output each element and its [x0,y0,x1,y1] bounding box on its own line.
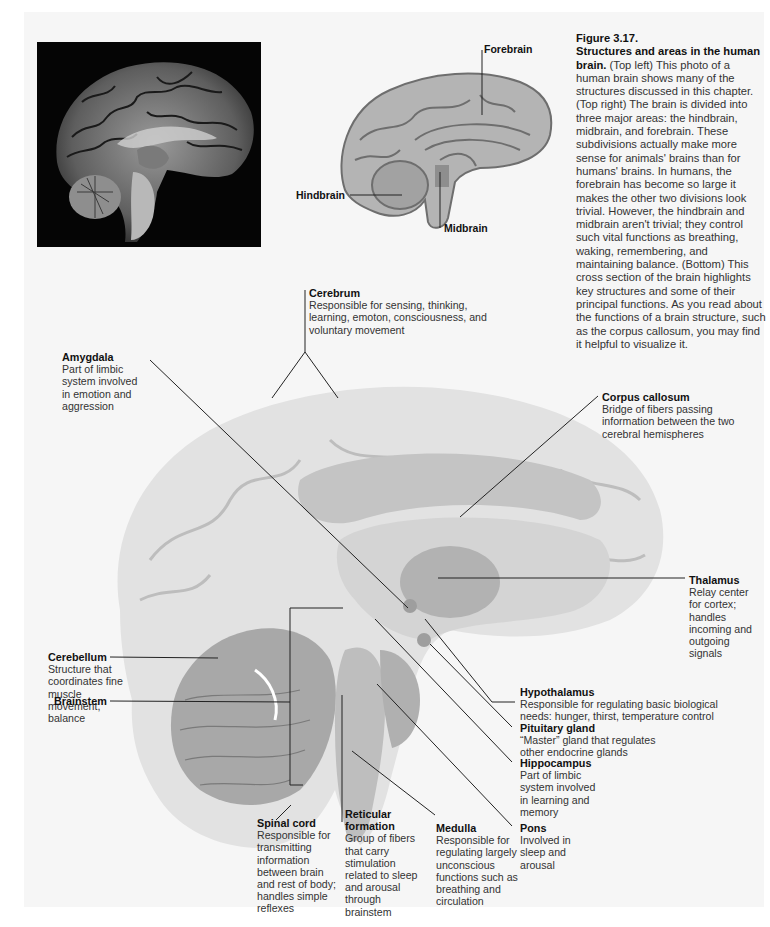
figure-caption: Figure 3.17. Structures and areas in the… [576,32,766,351]
label-hippocampus: Hippocampus Part of limbic system involv… [520,757,602,818]
label-medulla: Medulla Responsible for regulating large… [436,822,518,907]
medulla-name: Medulla [436,822,518,834]
label-pons: Pons Involved in sleep and arousal [520,822,582,871]
label-reticular-formation: Reticular formation Group of fibers that… [345,808,423,918]
thalamus-name: Thalamus [689,574,759,586]
cerebellum-name: Cerebellum [48,651,128,663]
corpus-callosum-desc: Bridge of fibers passing information bet… [602,403,767,440]
amygdala-desc: Part of limbic system involved in emotio… [62,363,140,412]
label-brainstem: Brainstem [54,695,107,707]
spinal-cord-name: Spinal cord [257,817,337,829]
label-thalamus: Thalamus Relay center for cortex; handle… [689,574,759,659]
medulla-desc: Responsible for regulating largely uncon… [436,834,518,907]
reticular-name: Reticular formation [345,808,423,832]
pons-desc: Involved in sleep and arousal [520,834,582,871]
hypothalamus-desc: Responsible for regulating basic biologi… [520,698,730,722]
cerebrum-desc: Responsible for sensing, thinking, learn… [309,299,499,336]
figure-number: Figure 3.17. [576,32,766,45]
label-forebrain: Forebrain [484,43,532,55]
brainstem-name: Brainstem [54,695,107,707]
label-spinal-cord: Spinal cord Responsible for transmitting… [257,817,337,915]
label-midbrain: Midbrain [444,222,488,234]
division-diagram [341,50,551,228]
label-amygdala: Amygdala Part of limbic system involved … [62,351,140,412]
hippocampus-name: Hippocampus [520,757,602,769]
cerebrum-name: Cerebrum [309,287,499,299]
hypothalamus-name: Hypothalamus [520,686,730,698]
label-corpus-callosum: Corpus callosum Bridge of fibers passing… [602,391,767,440]
label-hypothalamus: Hypothalamus Responsible for regulating … [520,686,730,723]
label-pituitary-gland: Pituitary gland “Master” gland that regu… [520,722,670,759]
reticular-desc: Group of fibers that carry stimulation r… [345,832,423,917]
hippocampus-desc: Part of limbic system involved in learni… [520,769,602,818]
label-cerebellum: Cerebellum Structure that coordinates fi… [48,651,128,724]
cerebellum-desc: Structure that coordinates fine muscle m… [48,663,128,724]
pituitary-desc: “Master” gland that regulates other endo… [520,734,670,758]
pituitary-name: Pituitary gland [520,722,670,734]
amygdala-name: Amygdala [62,351,140,363]
spinal-cord-desc: Responsible for transmitting information… [257,829,337,914]
corpus-callosum-name: Corpus callosum [602,391,767,403]
thalamus-desc: Relay center for cortex; handles incomin… [689,586,759,659]
figure-caption-body: (Top left) This photo of a human brain s… [576,59,766,350]
label-cerebrum: Cerebrum Responsible for sensing, thinki… [309,287,499,336]
pons-name: Pons [520,822,582,834]
label-hindbrain: Hindbrain [296,189,345,201]
